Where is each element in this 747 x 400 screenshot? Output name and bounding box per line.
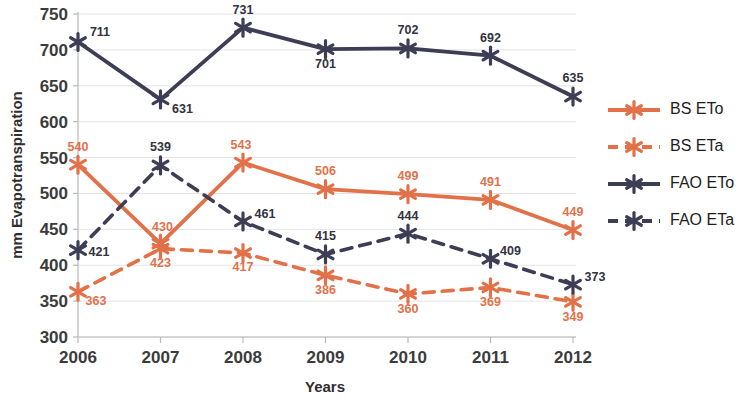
y-tick-label: 450 bbox=[40, 220, 68, 239]
chart-legend: BS EToBS ETaFAO EToFAO ETa bbox=[608, 100, 734, 229]
data-label: 461 bbox=[255, 207, 276, 221]
data-label: 692 bbox=[480, 31, 501, 45]
data-label: 499 bbox=[398, 169, 419, 183]
x-tick-label: 2007 bbox=[142, 348, 180, 367]
data-label: 701 bbox=[315, 57, 336, 71]
y-tick-label: 350 bbox=[40, 292, 68, 311]
y-tick-label: 500 bbox=[40, 184, 68, 203]
y-axis-tick-labels: 300350400450500550600650700750 bbox=[40, 5, 68, 347]
y-axis-title: mm Evapotranspiration bbox=[8, 91, 25, 259]
x-tick-label: 2006 bbox=[59, 348, 97, 367]
data-label: 449 bbox=[563, 205, 584, 219]
y-tick-label: 400 bbox=[40, 256, 68, 275]
y-tick-label: 650 bbox=[40, 77, 68, 96]
legend-label: FAO ETo bbox=[670, 174, 734, 191]
data-label: 360 bbox=[398, 302, 419, 316]
data-label: 635 bbox=[563, 71, 584, 85]
x-tick-label: 2008 bbox=[224, 348, 262, 367]
data-label: 711 bbox=[90, 25, 110, 39]
x-tick-label: 2011 bbox=[472, 348, 509, 367]
data-label: 423 bbox=[150, 256, 171, 270]
marker-bs-eta-2012 bbox=[566, 293, 581, 310]
marker-fao-eto-2006 bbox=[71, 33, 86, 50]
legend-item-fao-eta[interactable]: FAO ETa bbox=[608, 211, 734, 229]
x-tick-label: 2012 bbox=[554, 348, 592, 367]
data-label: 444 bbox=[398, 209, 419, 223]
data-label: 631 bbox=[172, 102, 193, 116]
data-label: 409 bbox=[500, 244, 521, 258]
data-label: 539 bbox=[150, 140, 171, 154]
legend-item-bs-eta[interactable]: BS ETa bbox=[608, 137, 723, 155]
legend-item-bs-eto[interactable]: BS ETo bbox=[608, 100, 723, 118]
x-tick-label: 2010 bbox=[389, 348, 427, 367]
marker-fao-eto-2012 bbox=[566, 88, 581, 105]
y-tick-label: 550 bbox=[40, 149, 68, 168]
data-label: 386 bbox=[315, 283, 336, 297]
data-label: 543 bbox=[231, 138, 252, 152]
marker-bs-eta-2006 bbox=[71, 283, 86, 300]
data-label: 417 bbox=[233, 260, 254, 274]
data-label: 373 bbox=[585, 270, 606, 284]
data-label: 731 bbox=[233, 3, 254, 17]
data-label: 430 bbox=[152, 220, 173, 234]
evapotranspiration-line-chart: 300350400450500550600650700750 200620072… bbox=[0, 0, 747, 400]
data-label: 506 bbox=[315, 164, 336, 178]
marker-fao-eta-2008 bbox=[236, 213, 251, 230]
legend-label: FAO ETa bbox=[670, 211, 734, 228]
legend-label: BS ETa bbox=[670, 137, 723, 154]
data-label: 540 bbox=[68, 140, 89, 154]
data-label: 421 bbox=[89, 245, 110, 259]
legend-item-fao-eto[interactable]: FAO ETo bbox=[608, 174, 734, 192]
data-label: 491 bbox=[480, 175, 501, 189]
x-axis-title: Years bbox=[305, 378, 345, 395]
legend-label: BS ETo bbox=[670, 100, 723, 117]
y-tick-label: 700 bbox=[40, 41, 68, 60]
y-tick-label: 600 bbox=[40, 113, 68, 132]
data-label: 349 bbox=[563, 310, 584, 324]
data-label: 369 bbox=[480, 295, 501, 309]
x-tick-label: 2009 bbox=[307, 348, 345, 367]
y-tick-label: 300 bbox=[40, 328, 68, 347]
y-tick-label: 750 bbox=[40, 5, 68, 24]
data-label: 363 bbox=[86, 294, 107, 308]
x-axis-tick-labels: 2006200720082009201020112012 bbox=[59, 348, 592, 367]
chart-canvas: 300350400450500550600650700750 200620072… bbox=[0, 0, 747, 400]
data-label: 702 bbox=[398, 23, 419, 37]
marker-fao-eta-2007 bbox=[153, 157, 168, 174]
data-label: 415 bbox=[315, 229, 336, 243]
